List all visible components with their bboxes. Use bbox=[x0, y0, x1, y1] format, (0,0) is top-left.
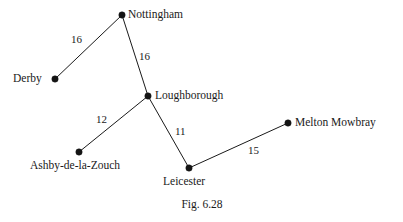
edge-weight-label: 15 bbox=[248, 145, 259, 156]
node-label-leicester: Leicester bbox=[163, 176, 205, 188]
graph-edge bbox=[79, 96, 148, 152]
node-label-loughborough: Loughborough bbox=[155, 90, 223, 102]
edge-weight-label: 11 bbox=[175, 126, 186, 137]
figure-caption: Fig. 6.28 bbox=[181, 199, 222, 211]
graph-node-dot bbox=[52, 76, 58, 82]
graph-node-dot bbox=[285, 120, 291, 126]
node-label-melton: Melton Mowbray bbox=[295, 117, 376, 129]
figure-container: NottinghamDerbyLoughboroughAshby-de-la-Z… bbox=[0, 0, 403, 222]
edge-weight-label: 16 bbox=[139, 51, 150, 62]
node-label-nottingham: Nottingham bbox=[128, 9, 183, 21]
graph-edge bbox=[55, 15, 122, 79]
graph-node-dot bbox=[145, 93, 151, 99]
node-label-derby: Derby bbox=[13, 73, 42, 85]
graph-node-dot bbox=[186, 165, 192, 171]
edge-weight-label: 12 bbox=[96, 114, 107, 125]
edge-weight-label: 16 bbox=[71, 34, 82, 45]
graph-node-dot bbox=[119, 12, 125, 18]
graph-canvas bbox=[0, 0, 403, 222]
graph-node-dot bbox=[76, 149, 82, 155]
node-label-ashby: Ashby-de-la-Zouch bbox=[30, 160, 120, 172]
graph-edge bbox=[189, 123, 288, 168]
